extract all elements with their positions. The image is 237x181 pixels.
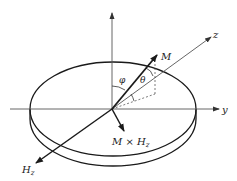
torque-label: M × Hz <box>111 136 150 149</box>
magnetization-diagram: z y M φ θ Hz M × Hz <box>0 0 237 181</box>
torque-vector <box>112 109 124 131</box>
field-label-main: H <box>21 164 31 175</box>
phi-arc <box>112 86 125 90</box>
y-axis-label: y <box>221 104 228 115</box>
field-label-subscript: z <box>30 169 35 177</box>
torque-label-main: M × H <box>111 136 146 147</box>
phi-label: φ <box>119 75 126 85</box>
magnetization-label: M <box>160 51 172 62</box>
torque-label-subscript: z <box>145 141 150 149</box>
theta-proj-arc <box>131 94 134 101</box>
z-axis-label: z <box>212 29 219 40</box>
field-label: Hz <box>21 164 35 177</box>
theta-label: θ <box>140 75 146 85</box>
theta-arc <box>146 68 153 76</box>
z-axis <box>112 37 211 109</box>
